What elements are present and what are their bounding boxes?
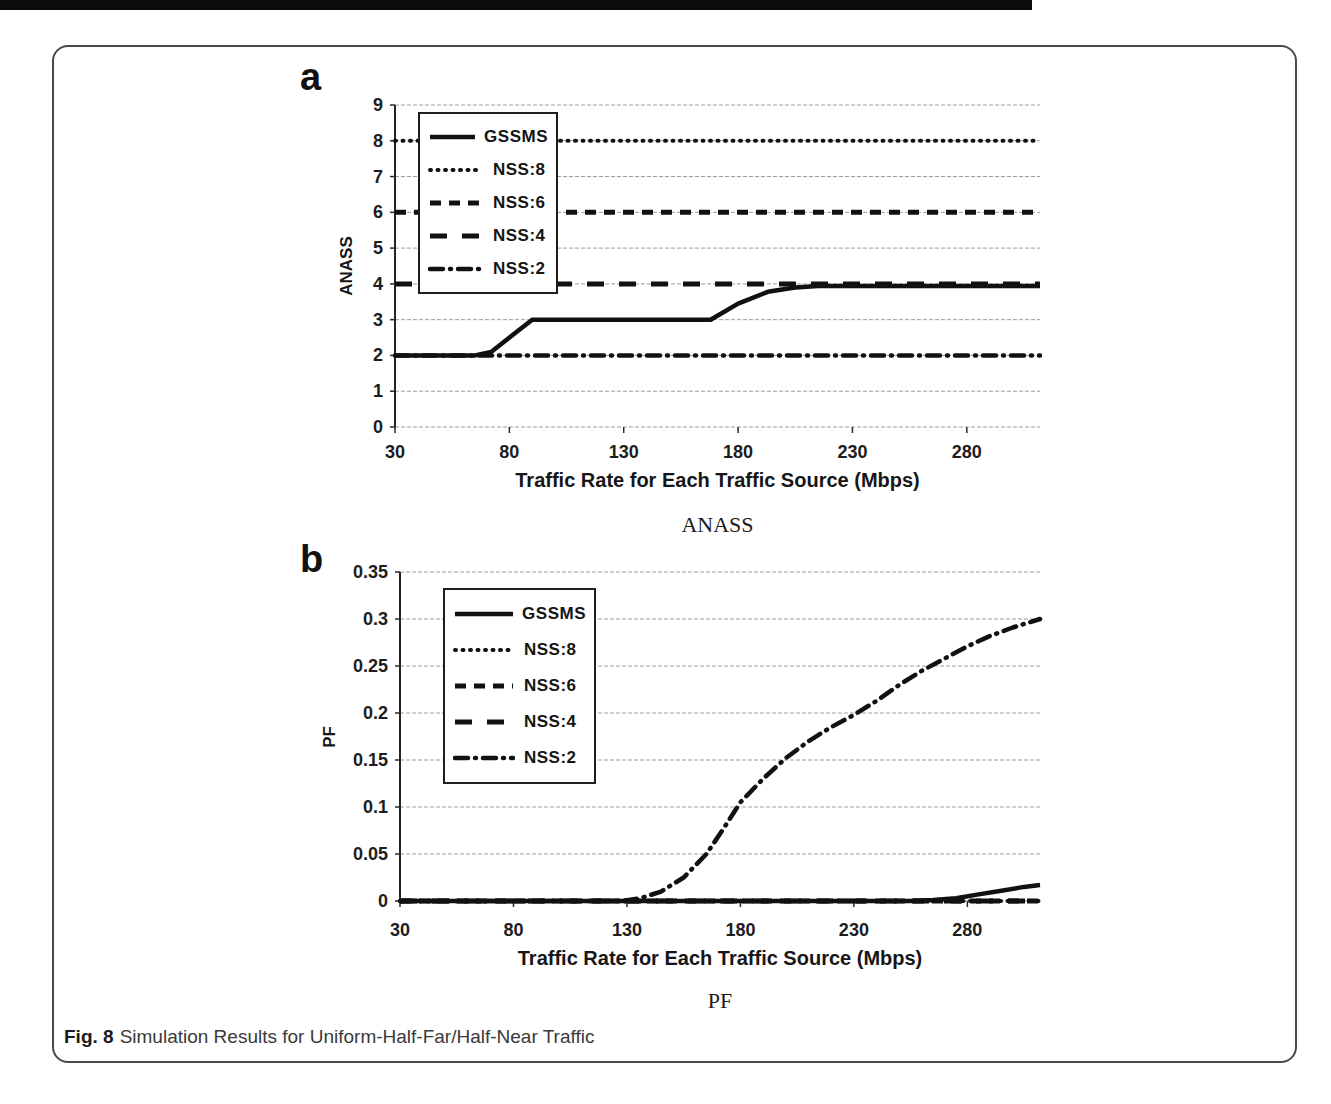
y-tick-label: 0 [328, 892, 388, 910]
legend-label: NSS:8 [493, 160, 546, 180]
figure-page: { "figure": { "caption": { "label": "Fig… [0, 0, 1331, 1104]
x-tick-label: 180 [723, 443, 753, 461]
figure-caption-text: Simulation Results for Uniform-Half-Far/… [120, 1026, 595, 1047]
legend-item: GSSMS [453, 604, 586, 624]
legend-label: NSS:4 [524, 712, 577, 732]
y-tick-label: 0 [323, 418, 383, 436]
x-tick-label: 280 [952, 443, 982, 461]
x-tick-label: 30 [385, 443, 405, 461]
y-axis-title: PF [320, 726, 340, 748]
legend-label: NSS:2 [524, 748, 577, 768]
legend-item: NSS:2 [428, 259, 548, 279]
x-tick-label: 30 [390, 921, 410, 939]
figure-caption-label: Fig. 8 [64, 1026, 114, 1047]
legend-line-sample [453, 645, 515, 655]
legend: GSSMSNSS:8NSS:6NSS:4NSS:2 [418, 112, 558, 294]
y-tick-label: 8 [323, 132, 383, 150]
legend-line-sample [453, 609, 513, 619]
legend-line-sample [453, 753, 515, 763]
legend-item: NSS:8 [428, 160, 548, 180]
x-tick-label: 80 [503, 921, 523, 939]
y-tick-label: 0.25 [328, 657, 388, 675]
legend-line-sample [453, 717, 515, 727]
x-tick-label: 180 [725, 921, 755, 939]
sub-caption-a: ANASS [681, 512, 753, 538]
legend-label: GSSMS [484, 127, 548, 147]
x-tick-label: 130 [612, 921, 642, 939]
legend-line-sample [428, 264, 484, 274]
legend-item: GSSMS [428, 127, 548, 147]
y-tick-label: 1 [323, 382, 383, 400]
x-tick-label: 130 [609, 443, 639, 461]
panel-letter-a: a [300, 58, 321, 96]
legend-line-sample [428, 132, 475, 142]
legend-line-sample [453, 681, 515, 691]
y-tick-label: 7 [323, 168, 383, 186]
legend-label: NSS:2 [493, 259, 546, 279]
legend-item: NSS:4 [453, 712, 586, 732]
panel-letter-b: b [300, 540, 323, 578]
legend-label: NSS:8 [524, 640, 577, 660]
legend-item: NSS:8 [453, 640, 586, 660]
legend-label: NSS:6 [493, 193, 546, 213]
x-tick-label: 280 [952, 921, 982, 939]
legend-item: NSS:2 [453, 748, 586, 768]
figure-caption: Fig. 8Simulation Results for Uniform-Hal… [64, 1026, 594, 1048]
y-tick-label: 3 [323, 311, 383, 329]
sub-caption-b: PF [708, 988, 732, 1014]
legend-line-sample [428, 231, 484, 241]
y-tick-label: 9 [323, 96, 383, 114]
y-tick-label: 0.3 [328, 610, 388, 628]
legend-item: NSS:6 [453, 676, 586, 696]
legend-label: GSSMS [522, 604, 586, 624]
legend-line-sample [428, 165, 484, 175]
legend-item: NSS:4 [428, 226, 548, 246]
legend-line-sample [428, 198, 484, 208]
x-tick-label: 230 [837, 443, 867, 461]
y-axis-title: ANASS [337, 236, 357, 296]
y-tick-label: 0.1 [328, 798, 388, 816]
x-tick-label: 80 [499, 443, 519, 461]
y-tick-label: 6 [323, 203, 383, 221]
legend: GSSMSNSS:8NSS:6NSS:4NSS:2 [443, 588, 596, 784]
legend-label: NSS:6 [524, 676, 577, 696]
y-tick-label: 2 [323, 346, 383, 364]
y-tick-label: 0.05 [328, 845, 388, 863]
legend-item: NSS:6 [428, 193, 548, 213]
y-tick-label: 0.15 [328, 751, 388, 769]
y-tick-label: 0.2 [328, 704, 388, 722]
x-axis-title: Traffic Rate for Each Traffic Source (Mb… [515, 469, 920, 492]
x-tick-label: 230 [839, 921, 869, 939]
y-tick-label: 0.35 [328, 563, 388, 581]
x-axis-title: Traffic Rate for Each Traffic Source (Mb… [518, 947, 923, 970]
labels-layer: 98765432103080130180230280aTraffic Rate … [0, 0, 1331, 1104]
legend-label: NSS:4 [493, 226, 546, 246]
